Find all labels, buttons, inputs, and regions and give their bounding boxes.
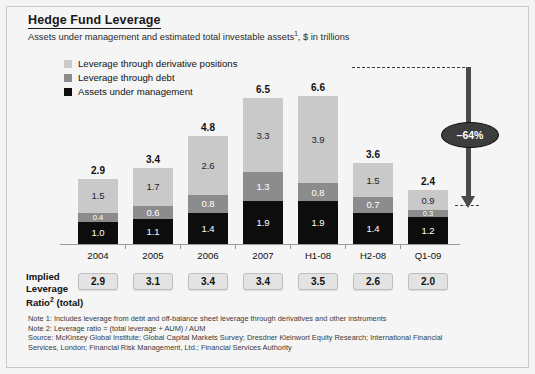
ratio-label-line1: Implied xyxy=(26,271,83,283)
callout-leader-line-top xyxy=(352,67,470,68)
implied-leverage-ratio-value: 3.1 xyxy=(133,273,173,290)
x-axis-label: H1-08 xyxy=(291,250,345,261)
bar-segment-derivative[interactable]: 2.6 xyxy=(188,136,228,194)
bar-total-label: 2.4 xyxy=(408,176,448,187)
bar-segment-aum[interactable]: 1.2 xyxy=(408,217,448,244)
bar-segment-debt[interactable]: 0.4 xyxy=(78,213,118,222)
subtitle-text: Assets under management and estimated to… xyxy=(28,32,294,42)
bar-segment-aum[interactable]: 1.9 xyxy=(298,201,338,244)
bar-chart-plot-area: 1.50.41.02.91.70.61.13.42.60.81.44.83.31… xyxy=(70,48,455,244)
page-title: Hedge Fund Leverage xyxy=(28,13,161,29)
x-axis-tick xyxy=(235,244,236,249)
ratio-label-line3: Ratio2 (total) xyxy=(26,294,83,309)
bar-column[interactable]: 1.50.41.0 xyxy=(78,179,118,244)
subtitle-units: , $ in trillions xyxy=(298,32,350,42)
implied-leverage-ratio-value: 3.4 xyxy=(188,273,228,290)
x-axis-label: 2004 xyxy=(71,250,125,261)
x-axis-label: 2005 xyxy=(126,250,180,261)
slide-canvas: Hedge Fund Leverage Assets under managem… xyxy=(0,0,535,374)
bar-segment-debt[interactable]: 0.8 xyxy=(298,183,338,201)
source-line-2: Services, London; Financial Risk Managem… xyxy=(28,343,506,353)
ratio-label-word: Ratio xyxy=(26,297,50,308)
bar-segment-aum[interactable]: 1.1 xyxy=(133,219,173,244)
bar-total-label: 4.8 xyxy=(188,122,228,133)
bar-segment-derivative[interactable]: 3.3 xyxy=(243,98,283,172)
decline-arrow-head-icon xyxy=(461,196,475,208)
implied-leverage-ratio-value: 3.5 xyxy=(298,273,338,290)
x-axis-label: H2-08 xyxy=(346,250,400,261)
note-2: Note 2: Leverage ratio = (total leverage… xyxy=(28,324,506,334)
page-subtitle: Assets under management and estimated to… xyxy=(28,30,350,42)
bar-segment-derivative[interactable]: 1.5 xyxy=(78,179,118,213)
bar-column[interactable]: 1.70.61.1 xyxy=(133,168,173,244)
bar-segment-aum[interactable]: 1.4 xyxy=(353,213,393,244)
ratio-label-total: (total) xyxy=(54,297,83,308)
bar-segment-aum[interactable]: 1.4 xyxy=(188,213,228,244)
bar-segment-debt[interactable]: 0.8 xyxy=(188,195,228,213)
bar-total-label: 2.9 xyxy=(78,165,118,176)
bar-column[interactable]: 3.31.31.9 xyxy=(243,98,283,244)
bar-segment-derivative[interactable]: 0.9 xyxy=(408,190,448,210)
ratio-label-line2: Leverage xyxy=(26,283,83,295)
bar-column[interactable]: 2.60.81.4 xyxy=(188,136,228,244)
implied-leverage-ratio-value: 2.0 xyxy=(408,273,448,290)
x-axis-tick xyxy=(125,244,126,249)
x-axis-tick xyxy=(400,244,401,249)
x-axis-label: Q1-09 xyxy=(401,250,455,261)
bar-segment-debt[interactable]: 0.6 xyxy=(133,206,173,219)
bar-column[interactable]: 0.90.31.2 xyxy=(408,190,448,244)
decline-percent-badge: –64% xyxy=(441,122,499,148)
bar-segment-debt[interactable]: 0.7 xyxy=(353,197,393,213)
bar-segment-derivative[interactable]: 1.5 xyxy=(353,163,393,197)
bar-total-label: 3.6 xyxy=(353,149,393,160)
bar-segment-debt[interactable]: 1.3 xyxy=(243,172,283,201)
bar-segment-aum[interactable]: 1.0 xyxy=(78,222,118,244)
implied-leverage-ratio-label: Implied Leverage Ratio2 (total) xyxy=(26,271,83,309)
x-axis-tick xyxy=(290,244,291,249)
x-axis-tick xyxy=(345,244,346,249)
bar-column[interactable]: 1.50.71.4 xyxy=(353,163,393,244)
bar-segment-aum[interactable]: 1.9 xyxy=(243,201,283,244)
x-axis-label: 2007 xyxy=(236,250,290,261)
bar-column[interactable]: 3.90.81.9 xyxy=(298,96,338,244)
implied-leverage-ratio-value: 3.4 xyxy=(243,273,283,290)
x-axis-label: 2006 xyxy=(181,250,235,261)
bar-total-label: 3.4 xyxy=(133,154,173,165)
bar-total-label: 6.6 xyxy=(298,82,338,93)
source-line-1: Source: McKinsey Global Institute; Globa… xyxy=(28,333,506,343)
implied-leverage-ratio-value: 2.6 xyxy=(353,273,393,290)
footnotes: Note 1: Includes leverage from debt and … xyxy=(28,314,506,352)
bar-segment-derivative[interactable]: 1.7 xyxy=(133,168,173,206)
x-axis-tick xyxy=(180,244,181,249)
note-1: Note 1: Includes leverage from debt and … xyxy=(28,314,506,324)
implied-leverage-ratio-value: 2.9 xyxy=(78,273,118,290)
bar-segment-derivative[interactable]: 3.9 xyxy=(298,96,338,183)
bar-segment-debt[interactable]: 0.3 xyxy=(408,210,448,217)
bar-total-label: 6.5 xyxy=(243,84,283,95)
